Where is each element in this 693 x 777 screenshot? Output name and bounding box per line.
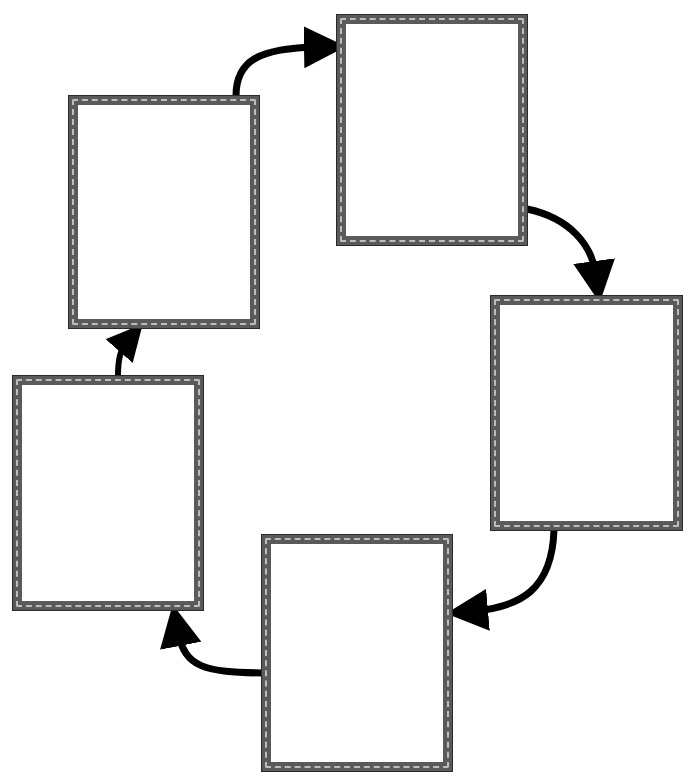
frame-box-2 xyxy=(337,15,527,245)
frame-content xyxy=(78,105,250,319)
frame-box-4 xyxy=(262,535,452,771)
frame-content xyxy=(22,385,194,601)
frame-box-1 xyxy=(69,96,259,328)
frame-content xyxy=(500,305,673,521)
arrow-box3-to-box4 xyxy=(474,530,554,611)
arrow-box4-to-box5 xyxy=(178,632,262,673)
arrow-box5-to-box1 xyxy=(118,342,127,376)
frame-box-3 xyxy=(491,296,682,530)
frame-content xyxy=(346,24,518,236)
arrow-box2-to-box3 xyxy=(527,209,596,275)
frame-content xyxy=(271,544,443,762)
frame-box-5 xyxy=(13,376,203,610)
arrow-box1-to-box2 xyxy=(236,47,318,96)
